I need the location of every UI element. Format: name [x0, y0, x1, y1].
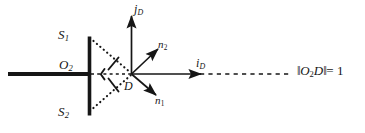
- label-origin-o2: O2: [59, 58, 73, 72]
- label-point-d: D: [124, 80, 133, 92]
- label-axis-id: iD: [196, 57, 205, 71]
- label-slit-s1: S1: [58, 28, 69, 42]
- label-normal-n2: n2: [158, 39, 167, 52]
- optics-diagram-figure: S1 S2 O2 D jD iD n2 n1 ‖O2D‖= 1: [0, 0, 365, 133]
- label-normal-n1: n1: [155, 95, 164, 108]
- normal-arrow-n2: [132, 49, 159, 74]
- label-axis-jd: jD: [134, 3, 143, 17]
- normal-arrow-n1: [132, 74, 157, 95]
- label-unit-distance-equation: ‖O2D‖= 1: [297, 64, 343, 78]
- label-slit-s2: S2: [58, 105, 69, 119]
